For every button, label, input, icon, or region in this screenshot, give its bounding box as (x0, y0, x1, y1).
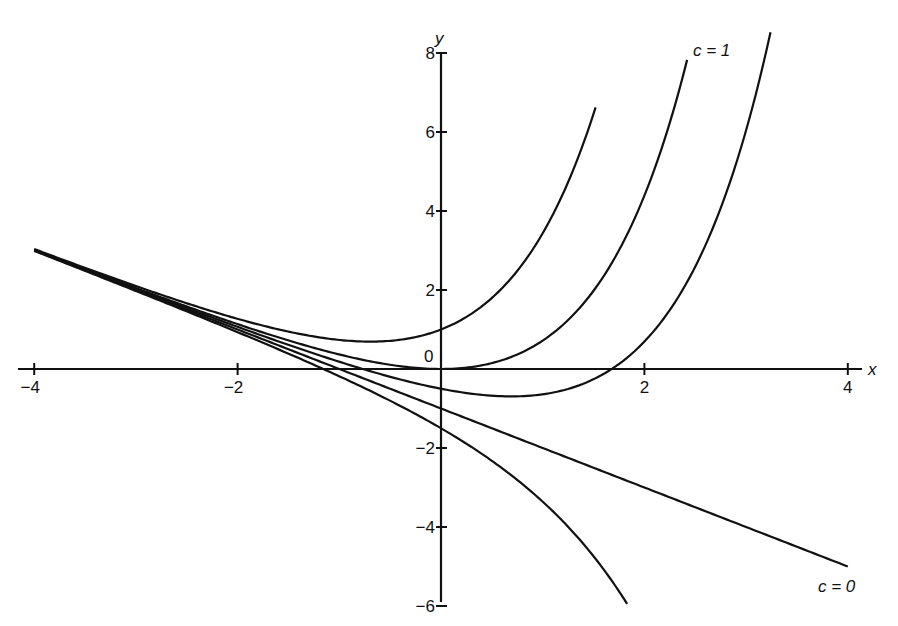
curve-c1 (34, 60, 687, 369)
curve-c0.5 (34, 32, 770, 396)
curve-c2 (34, 107, 595, 341)
curve-label-c1: c = 1 (693, 41, 730, 60)
x-tick-label: −2 (224, 378, 243, 397)
y-tick-label: 4 (426, 202, 435, 221)
curve-label-c0: c = 0 (818, 577, 856, 596)
x-tick-label: 2 (640, 378, 649, 397)
x-tick-label: −4 (21, 378, 40, 397)
y-tick-label: 8 (426, 44, 435, 63)
x-tick-label: 4 (843, 378, 852, 397)
axes (18, 53, 862, 602)
y-tick-label: 2 (426, 281, 435, 300)
y-tick-label: −2 (416, 439, 435, 458)
curve-c-0.5 (34, 251, 627, 604)
origin-label: 0 (424, 347, 433, 366)
y-axis-label: y (434, 29, 445, 48)
y-tick-label: 6 (426, 123, 435, 142)
x-axis-label: x (867, 360, 877, 379)
chart-canvas: −4−2248642−2−4−6 x y 0 c = 1 c = 0 (0, 0, 898, 626)
y-tick-label: −6 (416, 597, 435, 616)
y-tick-label: −4 (416, 518, 435, 537)
